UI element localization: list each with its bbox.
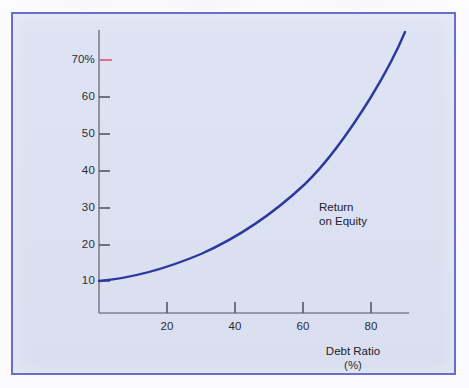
x-axis-title-line2: (%) [293, 358, 413, 372]
return-on-equity-curve [99, 32, 405, 281]
x-tick-label-60: 60 [283, 320, 323, 332]
x-tick-label-20: 20 [147, 320, 187, 332]
x-tick-label-40: 40 [215, 320, 255, 332]
figure-stage: 70% 60 50 40 30 20 10 20 40 60 80 Debt R… [0, 0, 469, 388]
series-annotation-line2: on Equity [319, 214, 367, 228]
scan-artifact-strip [0, 0, 469, 9]
series-annotation-line1: Return [319, 200, 367, 214]
y-tick-label-50: 50 [47, 127, 95, 139]
chart-panel: 70% 60 50 40 30 20 10 20 40 60 80 Debt R… [11, 12, 456, 375]
y-tick-label-20: 20 [47, 238, 95, 250]
y-tick-label-40: 40 [47, 164, 95, 176]
x-tick-label-80: 80 [351, 320, 391, 332]
series-annotation-return-on-equity: Return on Equity [319, 200, 367, 228]
y-tick-label-30: 30 [47, 201, 95, 213]
plot-area: 70% 60 50 40 30 20 10 20 40 60 80 Debt R… [13, 14, 458, 377]
x-axis-title: Debt Ratio (%) [293, 344, 413, 372]
x-axis-title-line1: Debt Ratio [293, 344, 413, 358]
y-tick-label-60: 60 [47, 90, 95, 102]
y-tick-label-70: 70% [47, 53, 95, 65]
y-tick-label-10: 10 [47, 274, 95, 286]
